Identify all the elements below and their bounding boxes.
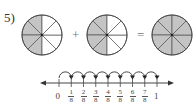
- fraction-label: 58: [116, 89, 124, 104]
- fraction-label: 78: [141, 89, 149, 104]
- plus-sign: +: [72, 27, 79, 43]
- hop-arrow-icon: [155, 76, 160, 80]
- equals-sign: =: [137, 27, 144, 43]
- fraction-circle: [22, 15, 62, 55]
- left-arrow-icon: [40, 81, 46, 86]
- fraction-label: 48: [104, 89, 112, 104]
- fraction-label: 68: [129, 89, 137, 104]
- tick-label: 1: [154, 91, 159, 101]
- fraction-circles: [22, 15, 192, 55]
- tick-label: 0: [56, 91, 61, 101]
- fraction-label: 38: [92, 89, 100, 104]
- fraction-label: 28: [80, 89, 88, 104]
- fraction-label: 18: [67, 89, 75, 104]
- fraction-circle: [87, 15, 127, 55]
- number-line: [40, 72, 174, 87]
- fraction-circle: [152, 15, 192, 55]
- right-arrow-icon: [168, 81, 174, 86]
